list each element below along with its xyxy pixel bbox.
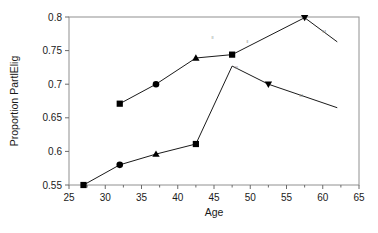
- line-chart: 2530354045505560650.550.60.650.70.750.8A…: [0, 0, 378, 233]
- x-axis-tick-label: 65: [353, 192, 365, 203]
- y-axis-tick-label: 0.55: [43, 180, 63, 191]
- y-axis-tick-label: 0.65: [43, 112, 63, 123]
- data-point-circle: [116, 162, 123, 169]
- data-point-square: [193, 141, 199, 147]
- x-axis-title: Age: [205, 206, 224, 218]
- y-axis-title: Proportion PartlElig: [8, 56, 20, 147]
- plot-border: [69, 17, 359, 185]
- data-point-square: [117, 101, 123, 107]
- y-axis-tick-label: 0.6: [48, 146, 62, 157]
- x-axis-tick-label: 40: [172, 192, 184, 203]
- series-line-upper: [120, 18, 338, 104]
- x-axis-tick-label: 45: [208, 192, 220, 203]
- x-axis-tick-label: 50: [245, 192, 257, 203]
- data-point-square: [229, 52, 235, 58]
- x-axis-tick-label: 25: [63, 192, 75, 203]
- segment-annotation: lll: [235, 65, 238, 70]
- y-axis-tick-label: 0.75: [43, 45, 63, 56]
- y-axis-tick-label: 0.7: [48, 79, 62, 90]
- segment-annotation: M: [299, 93, 303, 98]
- data-point-circle: [153, 81, 160, 88]
- data-point-triangle-down: [301, 15, 308, 21]
- x-axis-tick-label: 35: [136, 192, 148, 203]
- x-axis-tick-label: 30: [100, 192, 112, 203]
- x-axis-tick-label: 60: [317, 192, 329, 203]
- x-axis-tick-label: 55: [281, 192, 293, 203]
- y-axis-tick-label: 0.8: [48, 12, 62, 23]
- segment-annotation: ll: [212, 35, 214, 40]
- segment-annotation: ll: [246, 39, 248, 44]
- chart-container: 2530354045505560650.550.60.650.70.750.8A…: [0, 0, 378, 233]
- segment-annotation: M: [322, 29, 326, 34]
- data-point-square: [80, 182, 86, 188]
